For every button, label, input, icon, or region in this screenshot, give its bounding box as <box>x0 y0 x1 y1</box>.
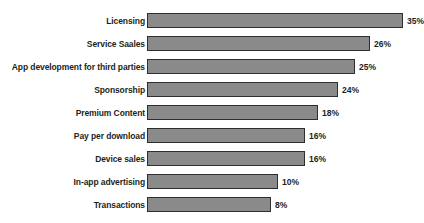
bar-and-value: 18% <box>147 104 339 121</box>
category-label: Transactions <box>3 200 145 210</box>
category-label: Device sales <box>3 154 145 164</box>
bar <box>147 151 305 166</box>
bar-and-value: 16% <box>147 150 326 167</box>
bar-row: Device sales16% <box>0 150 424 167</box>
bar-row: Sponsorship24% <box>0 81 424 98</box>
bar-and-value: 16% <box>147 127 326 144</box>
bar <box>147 82 338 97</box>
bar-value-label: 26% <box>374 39 391 49</box>
bar-row: In-app advertising10% <box>0 173 424 190</box>
bar-value-label: 8% <box>275 200 287 210</box>
bar-row: App development for third parties25% <box>0 58 424 75</box>
bar-value-label: 10% <box>282 177 299 187</box>
bar-value-label: 16% <box>309 154 326 164</box>
bar <box>147 197 271 212</box>
horizontal-bar-chart: Licensing35%Service Saales26%App develop… <box>0 0 424 223</box>
bar-value-label: 18% <box>322 108 339 118</box>
bar-and-value: 8% <box>147 196 287 213</box>
bar-and-value: 24% <box>147 81 359 98</box>
bar-and-value: 26% <box>147 35 391 52</box>
bar-and-value: 35% <box>147 12 424 29</box>
category-label: Pay per download <box>3 131 145 141</box>
bar <box>147 59 355 74</box>
bar-row: Licensing35% <box>0 12 424 29</box>
category-label: Sponsorship <box>3 85 145 95</box>
bar-value-label: 35% <box>407 16 424 26</box>
bar-row: Transactions8% <box>0 196 424 213</box>
bar-row: Service Saales26% <box>0 35 424 52</box>
bar <box>147 105 318 120</box>
category-label: Service Saales <box>3 39 145 49</box>
bar <box>147 36 370 51</box>
bar-row: Premium Content18% <box>0 104 424 121</box>
bar-and-value: 25% <box>147 58 376 75</box>
bar <box>147 13 403 28</box>
bar-value-label: 16% <box>309 131 326 141</box>
bar-row: Pay per download16% <box>0 127 424 144</box>
category-label: Premium Content <box>3 108 145 118</box>
category-label: In-app advertising <box>3 177 145 187</box>
bar-value-label: 24% <box>342 85 359 95</box>
bar-and-value: 10% <box>147 173 299 190</box>
bar <box>147 174 278 189</box>
bar-value-label: 25% <box>359 62 376 72</box>
category-label: App development for third parties <box>3 62 145 72</box>
category-label: Licensing <box>3 16 145 26</box>
bar <box>147 128 305 143</box>
